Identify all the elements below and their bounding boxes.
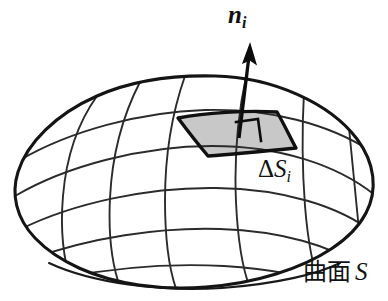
grid-line-u-3 [21,188,374,233]
patch-delta-symbol: Δ [258,155,274,182]
normal-vector-label: ni [228,2,246,31]
normal-vector-subscript: i [242,14,246,31]
diagram-canvas [0,0,388,301]
patch-subscript: i [287,168,291,185]
grid-line-v-2 [110,82,140,292]
surface-label-cjk: 曲面 [303,258,351,286]
normal-vector-symbol: n [228,1,242,28]
surface-outline [15,76,373,288]
grid-line-v-3 [165,76,185,294]
patch-area-symbol: S [274,155,287,182]
surface-label-symbol: S [355,258,368,285]
surface-integral-diagram: ni ΔSi 曲面S [0,0,388,301]
surface-label: 曲面S [303,259,368,284]
patch-label: ΔSi [258,156,291,185]
grid-line-v-1 [62,96,97,285]
